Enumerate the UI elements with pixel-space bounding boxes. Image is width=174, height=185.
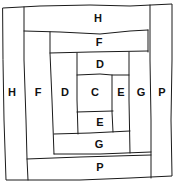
piece-label-g-right: G (137, 87, 146, 98)
piece-label-f-top: F (96, 37, 103, 48)
piece-label-h-left: H (8, 87, 16, 98)
piece-label-d-top: D (96, 59, 104, 70)
piece-label-g-bottom: G (95, 139, 104, 150)
piece-label-e-bottom: E (96, 117, 103, 128)
piece-label-e-right: E (117, 87, 124, 98)
piece-label-f-left: F (35, 87, 42, 98)
piece-label-h-top: H (94, 13, 102, 24)
piece-label-c-center: C (91, 87, 99, 98)
piece-label-d-left: D (61, 87, 69, 98)
log-cabin-diagram: H H F F D D C E E G G P P (0, 0, 174, 185)
piece-label-p-right: P (158, 87, 165, 98)
piece-label-p-bottom: P (96, 162, 103, 173)
diagram-lines (0, 0, 174, 185)
